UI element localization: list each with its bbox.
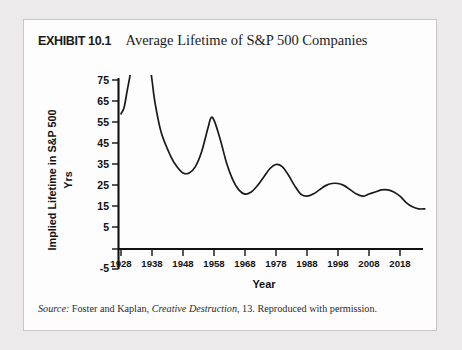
y-tick-label: 25 [97,179,109,191]
y-tick-label: 55 [97,116,109,128]
x-tick-label: 1948 [172,258,194,269]
x-tick-labels: 1928 1938 1948 1958 1968 1978 1988 1998 … [110,258,411,269]
y-tick-label: 45 [97,137,109,149]
y-axis-units: Yrs [62,171,74,188]
x-tick-label: 1928 [110,258,132,269]
x-tick-label: 1978 [265,258,287,269]
data-series-line [121,38,425,209]
y-tick-label: 15 [97,200,109,212]
y-tick-label: 35 [97,158,109,170]
x-tick-label: 1998 [327,258,349,269]
source-suffix: , 13. Reproduced with permission. [237,303,377,314]
x-tick-label: 2008 [358,258,380,269]
y-tick-label: 75 [97,74,109,86]
y-axis-title: Implied Lifetime in S&P 500 [46,110,58,251]
x-tick-label: 2018 [389,258,411,269]
figure-card: EXHIBIT 10.1Average Lifetime of S&P 500 … [23,19,437,331]
y-tick-labels: 75 65 55 45 35 25 15 5 -5 [97,74,109,274]
line-chart: 75 65 55 45 35 25 15 5 -5 1928 1938 [24,20,438,332]
y-tick-label: -5 [100,262,109,274]
x-tick-label: 1988 [296,258,318,269]
source-note: Source: Foster and Kaplan, Creative Dest… [38,303,377,314]
x-tick-label: 1938 [141,258,163,269]
x-axis-title: Year [252,278,276,290]
source-author: Foster and Kaplan, [72,303,149,314]
source-prefix: Source: [38,303,69,314]
y-tick-label: 5 [103,221,109,233]
source-book-title: Creative Destruction [152,303,237,314]
x-tick-label: 1968 [234,258,256,269]
x-tick-label: 1958 [203,258,225,269]
y-tick-label: 65 [97,95,109,107]
